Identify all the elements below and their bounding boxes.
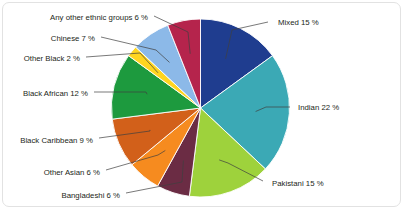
slice-label: Bangladeshi 6 %: [61, 191, 120, 200]
slice-label: Other Black 2 %: [24, 54, 80, 63]
slice-label: Mixed 15 %: [278, 18, 319, 27]
slice-label: Black Caribbean 9 %: [20, 136, 93, 145]
slice-label: Other Asian 6 %: [44, 168, 100, 177]
slice-label: Indian 22 %: [298, 103, 339, 112]
slice-label: Chinese 7 %: [51, 34, 95, 43]
slice-label: Pakistani 15 %: [272, 179, 324, 188]
slice-label: Black African 12 %: [23, 89, 88, 98]
pie-chart-figure: Mixed 15 %Indian 22 %Pakistani 15 %Bangl…: [0, 0, 407, 213]
pie-chart-canvas: Mixed 15 %Indian 22 %Pakistani 15 %Bangl…: [0, 0, 407, 213]
slice-label: Any other ethnic groups 6 %: [50, 13, 148, 22]
